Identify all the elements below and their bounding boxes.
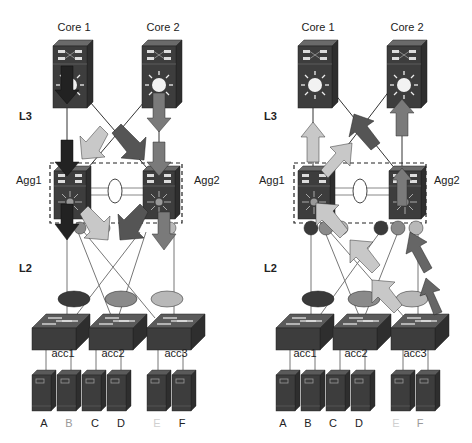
arrow-diagonal-icon [406, 232, 432, 273]
vlan-light-ellipse [151, 291, 183, 307]
server-c-icon [82, 370, 106, 411]
server-e-icon [391, 370, 415, 411]
server-f-label: F [417, 417, 424, 429]
server-d-label: D [355, 417, 363, 429]
left-diagram: Core 1 Core 2 L3 L2 Agg1 Agg2 acc1 acc2 … [16, 21, 220, 429]
server-d-icon [107, 370, 131, 411]
core2-label: Core 2 [146, 21, 179, 33]
acc2-switch-icon [333, 314, 391, 350]
core2-switch-icon [387, 40, 427, 108]
vlan-mid-ellipse [105, 291, 137, 307]
server-e-label: E [392, 417, 399, 429]
server-c-icon [326, 370, 350, 411]
l2-label: L2 [264, 262, 277, 274]
agg1-label: Agg1 [16, 174, 42, 186]
acc3-label: acc3 [403, 347, 426, 359]
acc3-switch-icon [147, 314, 205, 350]
acc3-label: acc3 [164, 347, 187, 359]
acc1-label: acc1 [293, 347, 316, 359]
agg2-label: Agg2 [194, 174, 220, 186]
core1-label: Core 1 [301, 21, 334, 33]
l2-label: L2 [19, 262, 32, 274]
server-e-icon [147, 370, 171, 411]
server-f-label: F [179, 417, 186, 429]
server-c-label: C [329, 417, 337, 429]
acc3-switch-icon [391, 314, 449, 350]
server-d-icon [351, 370, 375, 411]
server-a-label: A [279, 417, 287, 429]
network-diagram-stage: Core 1 Core 2 L3 L2 Agg1 Agg2 acc1 acc2 … [0, 0, 472, 443]
arrow-diagonal-icon [112, 124, 146, 160]
l3-label: L3 [19, 110, 32, 122]
server-e-label: E [153, 417, 160, 429]
server-a-icon [32, 370, 56, 411]
acc1-switch-icon [276, 314, 334, 350]
server-f-icon [172, 370, 196, 411]
server-c-label: C [91, 417, 99, 429]
server-f-icon [416, 370, 440, 411]
acc1-label: acc1 [51, 347, 74, 359]
server-b-icon [57, 370, 81, 411]
vlan-dark-ellipse [302, 291, 334, 307]
server-b-icon [301, 370, 325, 411]
arrow-diagonal-icon [80, 126, 108, 159]
agg2-switch-icon [389, 166, 426, 219]
server-a-label: A [40, 417, 48, 429]
acc2-switch-icon [89, 314, 147, 350]
server-b-label: B [304, 417, 311, 429]
arrow-diagonal-icon [321, 143, 352, 178]
server-b-label: B [65, 417, 72, 429]
core1-label: Core 1 [57, 21, 90, 33]
agg2-switch-icon [143, 166, 180, 219]
l3-label: L3 [264, 110, 277, 122]
core2-label: Core 2 [390, 21, 423, 33]
acc2-label: acc2 [344, 347, 367, 359]
core1-switch-icon [298, 40, 338, 108]
left-traffic-arrows [55, 66, 176, 250]
acc2-label: acc2 [101, 347, 124, 359]
server-d-label: D [117, 417, 125, 429]
server-a-icon [276, 370, 300, 411]
arrow-up-icon [301, 122, 325, 162]
agg1-label: Agg1 [259, 174, 285, 186]
right-diagram: Core 1 Core 2 L3 L2 Agg1 Agg2 acc1 acc2 … [259, 21, 460, 429]
acc1-switch-icon [32, 314, 90, 350]
vlan-dark-ellipse [58, 291, 90, 307]
arrow-diagonal-icon [349, 114, 380, 150]
agg2-label: Agg2 [434, 174, 460, 186]
arrow-diagonal-icon [118, 204, 148, 240]
